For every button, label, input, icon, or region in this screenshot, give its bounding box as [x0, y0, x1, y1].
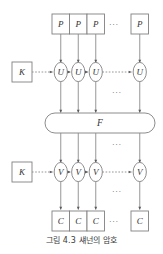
- ciphertext-label-3: C: [93, 216, 100, 226]
- figure-container: P P P ··· P K U U: [0, 0, 163, 254]
- u-to-f-ellipsis: ···: [112, 88, 122, 97]
- key-lower-group: K: [12, 162, 53, 182]
- ciphertext-row-ellipsis: ···: [109, 217, 119, 226]
- u-to-f-edges: ···: [61, 82, 140, 113]
- ciphertext-label-4: C: [137, 216, 144, 226]
- function-row: F: [45, 113, 155, 133]
- plaintext-label-4: P: [136, 19, 143, 29]
- u-state-row: U U U U: [54, 62, 146, 81]
- shannon-cipher-diagram: P P P ··· P K U U: [0, 0, 163, 254]
- u-label-1: U: [58, 67, 65, 77]
- u-label-3: U: [93, 67, 100, 77]
- plaintext-label-2: P: [75, 19, 82, 29]
- u-label-4: U: [137, 67, 144, 77]
- ciphertext-row: C C C ··· C: [52, 211, 149, 231]
- plaintext-to-u-edges: [61, 34, 140, 63]
- plaintext-label-3: P: [92, 19, 99, 29]
- key-upper-group: K: [12, 62, 53, 82]
- f-to-v-edges: ···: [61, 133, 140, 163]
- key-label-upper: K: [18, 67, 26, 77]
- key-label-lower: K: [18, 167, 26, 177]
- plaintext-label-1: P: [57, 19, 64, 29]
- ciphertext-label-1: C: [58, 216, 65, 226]
- figure-caption: 그림 4.3 섀넌의 암호: [0, 234, 163, 245]
- v-to-c-edges: ···: [61, 182, 140, 210]
- v-state-row: V V V V: [54, 162, 146, 181]
- u-label-2: U: [75, 67, 82, 77]
- plaintext-row-ellipsis: ···: [109, 20, 119, 29]
- f-to-v-ellipsis: ···: [112, 140, 122, 149]
- plaintext-row: P P P ··· P: [52, 14, 149, 34]
- function-label: F: [96, 118, 103, 128]
- v-to-c-ellipsis: ···: [112, 187, 122, 196]
- ciphertext-label-2: C: [75, 216, 82, 226]
